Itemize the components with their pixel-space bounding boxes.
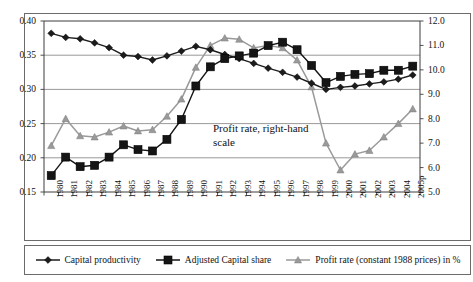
legend-item-label: Profit rate (constant 1988 prices) in % [315,255,460,265]
x-axis-tick-label: 2003 [387,180,397,198]
x-axis-tick-label: 2001 [358,180,368,198]
legend-marker-triangle-icon [285,254,311,266]
y-axis-left-tick-label: 0.40 [6,16,36,26]
x-axis-tick-label: 1998 [315,180,325,198]
y-axis-left-tick-label: 0.15 [6,187,36,197]
y-axis-right-tick-label: 11.0 [428,40,460,50]
legend-item[interactable]: Profit rate (constant 1988 prices) in % [285,254,460,266]
x-axis-tick-label: 1995 [272,180,282,198]
y-axis-right-tick-label: 7.0 [428,138,460,148]
x-axis-tick-label: 1992 [228,180,238,198]
legend-item[interactable]: Adjusted Capital share [155,254,272,266]
legend-item-label: Capital productivity [65,255,141,265]
x-axis-tick-label: 1988 [170,180,180,198]
y-axis-right-tick-label: 8.0 [428,114,460,124]
x-axis-tick-label: 1989 [185,180,195,198]
y-axis-right-tick-label: 5.0 [428,187,460,197]
x-axis-tick-label: 1990 [199,180,209,198]
y-axis-left-tick-label: 0.30 [6,84,36,94]
legend-item[interactable]: Capital productivity [35,254,141,266]
x-axis-tick-label: 1991 [214,180,224,198]
x-axis-tick-label: 1982 [84,180,94,198]
x-axis-tick-label: 1999 [330,180,340,198]
x-axis-tick-label: 2000 [344,180,354,198]
x-axis-tick-label: 2002 [373,180,383,198]
y-axis-right-tick-label: 10.0 [428,65,460,75]
y-axis-right-tick-label: 12.0 [428,16,460,26]
legend-marker-diamond-icon [35,254,61,266]
x-axis-tick-label: 1983 [98,180,108,198]
legend-marker-square-icon [155,254,181,266]
x-axis-tick-label: 1997 [301,180,311,198]
x-axis-tick-label: 1993 [243,180,253,198]
y-axis-right-tick-label: 9.0 [428,89,460,99]
x-axis-tick-label: 1986 [142,180,152,198]
x-axis-tick-label: 1984 [113,180,123,198]
x-axis-tick-label: 1981 [69,180,79,198]
y-axis-left-tick-label: 0.25 [6,119,36,129]
y-axis-left-tick-label: 0.35 [6,50,36,60]
y-axis-left-tick-label: 0.20 [6,153,36,163]
x-axis-tick-label: 1980 [55,180,65,198]
profit-rate-annotation: Profit rate, right-hand scale [213,122,333,149]
legend-item-label: Adjusted Capital share [185,255,272,265]
x-axis-tick-label: 2004 [402,180,412,198]
x-axis-tick-label: 1985 [127,180,137,198]
x-axis-tick-label: 1994 [257,180,267,198]
x-axis-tick-label: 2005p [416,176,426,199]
chart-figure: 0.150.200.250.300.350.40 5.06.07.08.09.0… [0,0,473,282]
y-axis-right-tick-label: 6.0 [428,163,460,173]
x-axis-tick-label: 1996 [286,180,296,198]
x-axis-tick-label: 1987 [156,180,166,198]
chart-legend: Capital productivityAdjusted Capital sha… [24,245,471,275]
